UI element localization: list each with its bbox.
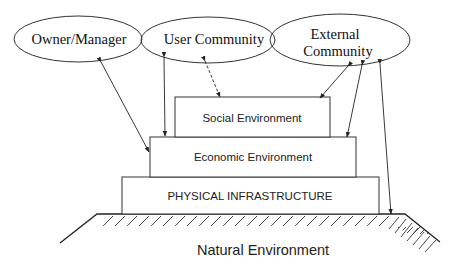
natural-environment-label: Natural Environment [197, 242, 329, 258]
external-community-label-line2: Community [303, 43, 373, 59]
diagram-canvas: Social Environment Economic Environment … [0, 0, 458, 272]
social-environment-label: Social Environment [202, 112, 302, 124]
owner-manager-label: Owner/Manager [31, 31, 126, 47]
external-community-label-line1: External [310, 26, 359, 42]
arrow-user-economic [164, 57, 165, 136]
user-community-label: User Community [164, 31, 265, 47]
physical-infrastructure-label: PHYSICAL INFRASTRUCTURE [167, 190, 332, 202]
economic-environment-label: Economic Environment [194, 151, 313, 163]
arrow-owner-economic [101, 62, 149, 152]
arrow-external-social [320, 66, 348, 98]
arrow-external-economic [347, 65, 362, 137]
arrow-external-natural [380, 64, 391, 214]
arrow-user-social-dashed [205, 61, 220, 97]
